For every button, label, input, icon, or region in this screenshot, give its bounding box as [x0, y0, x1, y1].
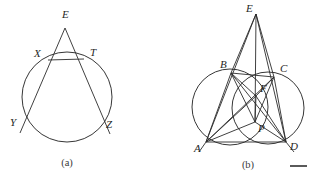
vertex-label-z: Z — [106, 118, 113, 130]
page-rule-mark — [290, 165, 307, 167]
vertex-label-e: E — [245, 2, 253, 14]
figure-b-canvas: E B C A D F P (b) — [156, 0, 311, 185]
vertex-label-t: T — [90, 46, 97, 58]
segment-e-c — [256, 14, 274, 77]
segment-e-b — [231, 14, 256, 73]
vertex-label-f: F — [259, 82, 267, 94]
vertex-label-a: A — [193, 142, 201, 154]
vertex-label-c: C — [280, 62, 288, 74]
vertex-label-x: X — [33, 47, 42, 59]
segment-a-p — [206, 122, 255, 142]
secant-line-e-x-y — [20, 28, 65, 133]
vertex-label-e: E — [61, 8, 69, 20]
vertex-label-d: D — [289, 140, 298, 152]
segment-group — [206, 14, 286, 142]
segment-a-f — [206, 96, 256, 142]
vertex-label-y: Y — [10, 116, 18, 128]
diagram-page: E X T Y Z (a) E B C A D F P (b) — [0, 0, 311, 185]
secant-line-e-t-z — [65, 28, 110, 134]
figure-a-container: E X T Y Z (a) — [0, 0, 156, 185]
vertex-label-b: B — [220, 58, 227, 70]
figure-a-caption: (a) — [61, 157, 73, 169]
extension-group — [199, 142, 294, 152]
figure-b-caption: (b) — [242, 159, 255, 171]
segment-a-b — [206, 73, 231, 142]
figure-b-container: E B C A D F P (b) — [156, 0, 311, 185]
figure-a-canvas: E X T Y Z (a) — [0, 0, 156, 185]
vertex-label-p: P — [257, 122, 265, 134]
